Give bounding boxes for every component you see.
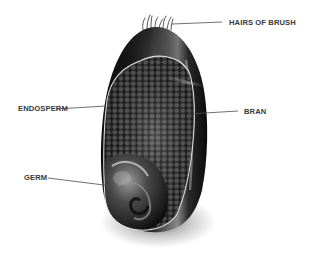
label-endosperm: ENDOSPERM <box>18 105 68 113</box>
label-bran: BRAN <box>244 108 266 116</box>
leader-hairs-of-brush <box>172 22 222 24</box>
kernel-illustration <box>0 0 315 257</box>
label-germ: GERM <box>24 174 47 182</box>
grain-diagram: HAIRS OF BRUSH ENDOSPERM BRAN GERM <box>0 0 315 257</box>
label-hairs-of-brush: HAIRS OF BRUSH <box>229 19 296 27</box>
